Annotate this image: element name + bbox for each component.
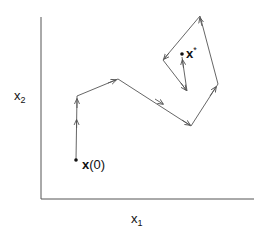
optimum-point-label-star: * — [193, 45, 197, 55]
diagram-canvas: x2 x1 x(0) x* — [0, 0, 269, 235]
optimum-point-label: x* — [186, 45, 197, 61]
y-axis-label: x2 — [14, 88, 26, 105]
x-axis-label: x1 — [131, 211, 143, 228]
x-axis-label-subscript: 1 — [138, 218, 143, 228]
optimum-point-dot — [180, 52, 184, 56]
iterate-path — [76, 16, 218, 160]
y-axis-label-subscript: 2 — [21, 95, 26, 105]
start-point-dot — [74, 158, 78, 162]
start-point-label: x(0) — [82, 157, 105, 172]
arrowheads — [77, 18, 216, 128]
start-point-label-rest: (0) — [89, 157, 105, 172]
trajectory-plot — [0, 0, 269, 235]
